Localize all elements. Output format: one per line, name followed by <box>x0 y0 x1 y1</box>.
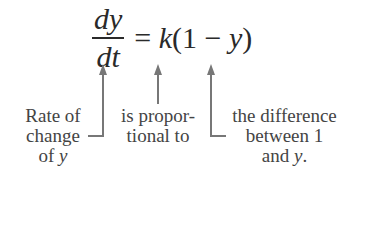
arrow-head-icon <box>207 64 215 75</box>
arrow-head-icon <box>99 64 107 75</box>
label-line: tional to <box>112 126 204 146</box>
label-difference: the difference between 1 and y. <box>222 106 347 166</box>
label-line: the difference <box>222 106 347 126</box>
arrow-head-icon <box>154 64 162 75</box>
label-line: between 1 <box>222 126 347 146</box>
arrow-rate-line <box>88 72 103 136</box>
label-line: change <box>22 126 84 146</box>
label-line: and y. <box>222 146 347 166</box>
label-line: of y <box>22 146 84 166</box>
label-line: Rate of <box>22 106 84 126</box>
label-proportional: is propor- tional to <box>112 106 204 146</box>
label-line: is propor- <box>112 106 204 126</box>
label-rate-of-change: Rate of change of y <box>22 106 84 166</box>
